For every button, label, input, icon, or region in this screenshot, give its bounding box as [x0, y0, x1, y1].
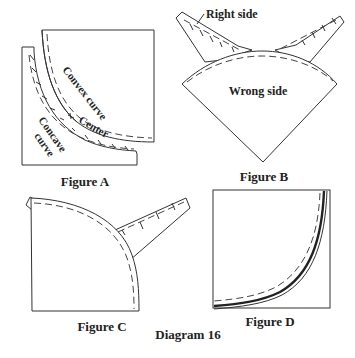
quarter-circle-piece — [31, 198, 139, 311]
figure-c-caption: Figure C — [77, 319, 126, 334]
wrong-side-label: Wrong side — [229, 84, 288, 98]
figure-a-caption: Figure A — [61, 174, 110, 189]
figure-d-caption: Figure D — [245, 314, 294, 329]
figure-d: Figure D — [213, 190, 330, 329]
figure-c: Figure C — [26, 197, 190, 334]
diagram-canvas: Convex curve Center Concave curve Figure… — [0, 0, 355, 358]
right-side-pointer — [197, 14, 204, 24]
right-side-label: Right side — [206, 7, 258, 21]
figure-b: Right side Wrong side Figure B — [176, 7, 344, 184]
diagram-title: Diagram 16 — [155, 327, 221, 342]
figure-a: Convex curve Center Concave curve Figure… — [22, 30, 154, 189]
figure-b-caption: Figure B — [240, 169, 289, 184]
square-block — [213, 190, 330, 308]
